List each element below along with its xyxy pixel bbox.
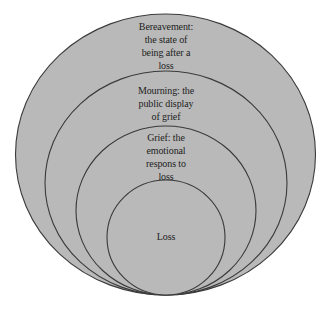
mourning-label-line: public display <box>110 97 222 110</box>
grief-label-line: emotional <box>110 144 222 157</box>
grief-label-line: Grief: the <box>110 131 222 144</box>
mourning-label-line: of grief <box>110 110 222 123</box>
grief-label-line: loss <box>110 170 222 183</box>
grief-label-line: respons to <box>110 157 222 170</box>
bereavement-label-line: Bereavement: <box>110 20 222 33</box>
mourning-label-line: Mourning: the <box>110 84 222 97</box>
bereavement-label-line: loss <box>110 59 222 72</box>
loss-label-line: Loss <box>110 230 222 243</box>
mourning-label: Mourning: the public display of grief <box>110 84 222 123</box>
bereavement-label-line: being after a <box>110 46 222 59</box>
bereavement-label-line: the state of <box>110 33 222 46</box>
bereavement-label: Bereavement: the state of being after a … <box>110 20 222 72</box>
grief-label: Grief: the emotional respons to loss <box>110 131 222 183</box>
loss-label: Loss <box>110 230 222 243</box>
